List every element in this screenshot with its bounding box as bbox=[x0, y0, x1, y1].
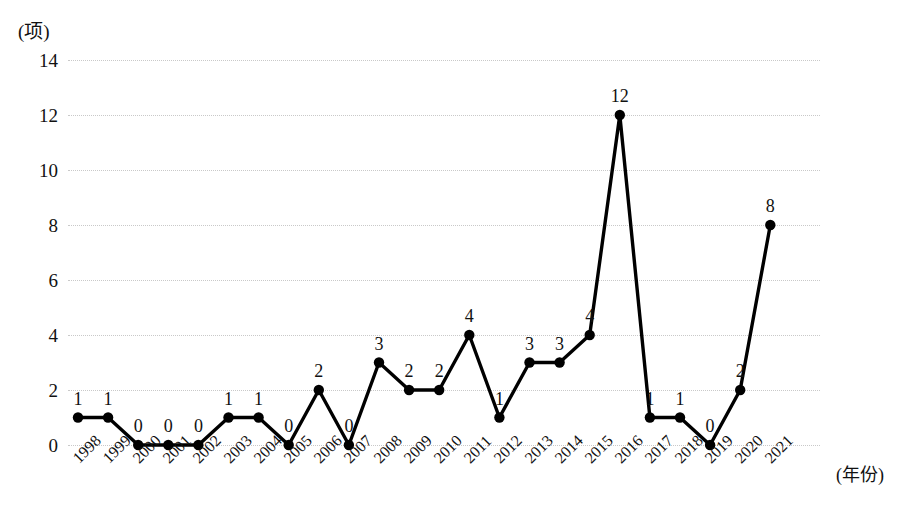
data-point-marker bbox=[253, 412, 263, 422]
data-point-marker bbox=[404, 385, 414, 395]
data-point-label: 1 bbox=[254, 390, 263, 408]
data-point-marker bbox=[314, 385, 324, 395]
data-point-marker bbox=[585, 330, 595, 340]
y-axis-unit-label: (项) bbox=[18, 22, 50, 41]
data-point-marker bbox=[73, 412, 83, 422]
x-axis-unit-label: (年份) bbox=[836, 466, 884, 484]
data-point-label: 3 bbox=[375, 335, 384, 353]
y-axis-tick-label: 12 bbox=[16, 106, 58, 125]
y-axis-tick-label: 4 bbox=[16, 326, 58, 345]
data-point-label: 1 bbox=[495, 390, 504, 408]
data-point-label: 0 bbox=[284, 417, 293, 435]
y-axis-tick-label: 6 bbox=[16, 271, 58, 290]
data-point-label: 2 bbox=[405, 362, 414, 380]
data-point-label: 4 bbox=[585, 307, 594, 325]
data-point-marker bbox=[374, 357, 384, 367]
data-point-label: 3 bbox=[525, 335, 534, 353]
data-point-marker bbox=[615, 110, 625, 120]
data-point-label: 0 bbox=[164, 417, 173, 435]
data-point-marker bbox=[434, 385, 444, 395]
data-point-marker bbox=[524, 357, 534, 367]
y-axis-tick-label: 2 bbox=[16, 381, 58, 400]
data-point-label: 0 bbox=[134, 417, 143, 435]
data-point-label: 2 bbox=[435, 362, 444, 380]
series-polyline bbox=[78, 115, 770, 445]
series-line-and-markers bbox=[68, 60, 820, 445]
data-point-label: 0 bbox=[344, 417, 353, 435]
y-axis-tick-label: 10 bbox=[16, 161, 58, 180]
data-point-label: 2 bbox=[314, 362, 323, 380]
data-point-marker bbox=[494, 412, 504, 422]
data-point-label: 1 bbox=[224, 390, 233, 408]
data-point-label: 1 bbox=[74, 390, 83, 408]
data-point-label: 8 bbox=[766, 197, 775, 215]
data-point-marker bbox=[645, 412, 655, 422]
data-point-label: 0 bbox=[706, 417, 715, 435]
data-point-label: 4 bbox=[465, 307, 474, 325]
data-point-marker bbox=[223, 412, 233, 422]
data-point-label: 0 bbox=[194, 417, 203, 435]
data-point-marker bbox=[103, 412, 113, 422]
y-axis-tick-label: 0 bbox=[16, 436, 58, 455]
data-point-marker bbox=[675, 412, 685, 422]
data-point-label: 1 bbox=[104, 390, 113, 408]
data-point-marker bbox=[765, 220, 775, 230]
data-point-label: 3 bbox=[555, 335, 564, 353]
data-point-label: 2 bbox=[736, 362, 745, 380]
data-point-marker bbox=[554, 357, 564, 367]
y-axis-tick-label: 8 bbox=[16, 216, 58, 235]
data-point-marker bbox=[735, 385, 745, 395]
plot-area: 02468101214 1100011020322413341211028 bbox=[68, 60, 820, 445]
y-axis-tick-label: 14 bbox=[16, 51, 58, 70]
data-point-label: 1 bbox=[676, 390, 685, 408]
data-point-label: 1 bbox=[645, 390, 654, 408]
data-point-marker bbox=[464, 330, 474, 340]
line-chart: (项) 02468101214 110001102032241334121102… bbox=[0, 0, 903, 522]
data-point-label: 12 bbox=[611, 87, 629, 105]
